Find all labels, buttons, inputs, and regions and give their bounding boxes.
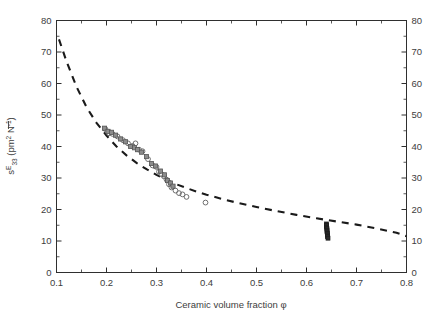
data-point-grey-square bbox=[128, 144, 132, 148]
y-tick-label-right: 20 bbox=[412, 204, 423, 215]
data-point-grey-square bbox=[153, 164, 157, 168]
x-axis-title: Ceramic volume fraction φ bbox=[175, 299, 286, 310]
data-point-grey-square bbox=[113, 133, 117, 137]
y-axis-title-units-close: ) bbox=[5, 117, 16, 120]
y-tick-label-right: 80 bbox=[412, 15, 423, 26]
x-tick-label: 0.4 bbox=[200, 277, 213, 288]
y-tick-label-left: 30 bbox=[41, 172, 52, 183]
y-tick-label-left: 70 bbox=[41, 46, 52, 57]
figure-background bbox=[0, 0, 441, 319]
data-point-grey-square bbox=[162, 173, 166, 177]
data-point-grey-square bbox=[171, 184, 175, 188]
data-point-dense-cluster bbox=[326, 236, 330, 240]
y-tick-label-left: 20 bbox=[41, 204, 52, 215]
y-tick-label-right: 0 bbox=[412, 267, 417, 278]
y-tick-label-left: 60 bbox=[41, 78, 52, 89]
data-point-grey-square bbox=[139, 150, 143, 154]
y-tick-label-left: 0 bbox=[46, 267, 51, 278]
data-point-grey-square bbox=[118, 137, 122, 141]
scatter-plot-svg: 0.10.20.30.40.50.60.70.8 010203040506070… bbox=[0, 0, 441, 319]
y-axis-tick-labels-left: 01020304050607080 bbox=[41, 15, 52, 278]
y-tick-label-right: 10 bbox=[412, 235, 423, 246]
y-tick-label-left: 80 bbox=[41, 15, 52, 26]
x-tick-label: 0.5 bbox=[250, 277, 263, 288]
y-axis-title-units-n: N bbox=[5, 126, 16, 136]
x-tick-label: 0.6 bbox=[300, 277, 313, 288]
data-point-grey-square bbox=[144, 154, 148, 158]
y-tick-label-right: 60 bbox=[412, 78, 423, 89]
y-tick-label-left: 10 bbox=[41, 235, 52, 246]
y-tick-label-right: 40 bbox=[412, 141, 423, 152]
y-tick-label-left: 50 bbox=[41, 109, 52, 120]
chart-figure: 0.10.20.30.40.50.60.70.8 010203040506070… bbox=[0, 0, 441, 319]
x-tick-label: 0.8 bbox=[400, 277, 413, 288]
y-tick-label-right: 30 bbox=[412, 172, 423, 183]
x-tick-label: 0.2 bbox=[100, 277, 113, 288]
data-point-grey-square bbox=[135, 148, 139, 152]
y-tick-label-right: 50 bbox=[412, 109, 423, 120]
x-tick-label: 0.3 bbox=[150, 277, 163, 288]
x-tick-label: 0.7 bbox=[350, 277, 363, 288]
data-point-grey-square bbox=[109, 130, 113, 134]
y-axis-title-units: (pm bbox=[5, 139, 16, 158]
y-tick-label-left: 40 bbox=[41, 141, 52, 152]
y-tick-label-right: 70 bbox=[412, 46, 423, 57]
data-point-grey-square bbox=[123, 140, 127, 144]
x-tick-label: 0.1 bbox=[50, 277, 63, 288]
data-point-grey-square bbox=[149, 161, 153, 165]
data-point-grey-square bbox=[158, 169, 162, 173]
y-axis-tick-labels-right: 01020304050607080 bbox=[412, 15, 423, 278]
